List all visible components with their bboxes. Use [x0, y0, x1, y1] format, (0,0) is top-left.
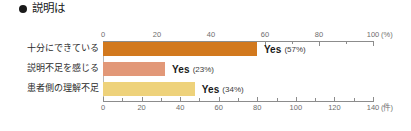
bar-row: Yes(57%): [103, 42, 373, 56]
bar-row: Yes(23%): [103, 62, 373, 76]
filled-circle-icon: [19, 5, 27, 13]
category-label: 説明不足を感じる: [27, 64, 99, 73]
bar: [103, 82, 195, 96]
axis-tick-label: 100: [367, 31, 380, 39]
axis-minor-tick: [238, 98, 239, 101]
axis-tick-label: 80: [253, 104, 261, 112]
bar-value-yes: Yes: [264, 44, 282, 55]
axis-minor-tick: [122, 98, 123, 101]
bar-value-percent: (34%): [222, 85, 243, 94]
axis-minor-tick: [354, 98, 355, 101]
axis-tick: [257, 97, 258, 102]
axis-tick: [373, 41, 374, 46]
axis-tick-label: 60: [215, 104, 223, 112]
top-axis-unit: (%): [381, 31, 393, 39]
bar-value-label: Yes(34%): [195, 82, 244, 96]
bar-value-yes: Yes: [172, 64, 190, 75]
axis-tick-label: 0: [101, 31, 105, 39]
axis-minor-tick: [277, 98, 278, 101]
bottom-axis-unit: (件): [381, 104, 393, 112]
axis-tick-label: 100: [290, 104, 303, 112]
axis-minor-tick: [199, 98, 200, 101]
plot-area: 020406080100 020406080100120140 (%) (件) …: [103, 35, 373, 107]
axis-tick: [373, 97, 374, 102]
bottom-axis-line: [103, 101, 373, 102]
axis-tick: [296, 97, 297, 102]
chart-title-row: 説明は: [19, 3, 66, 15]
bar-value-percent: (57%): [284, 45, 305, 54]
axis-tick: [103, 97, 104, 102]
chart-figure: 説明は 020406080100 020406080100120140 (%) …: [0, 0, 411, 131]
axis-tick-label: 40: [176, 104, 184, 112]
bar: [103, 42, 257, 56]
axis-tick-label: 20: [153, 31, 161, 39]
axis-minor-tick: [315, 98, 316, 101]
bar-value-yes: Yes: [202, 84, 220, 95]
axis-tick-label: 120: [328, 104, 341, 112]
bar-value-percent: (23%): [193, 65, 214, 74]
axis-tick-label: 80: [315, 31, 323, 39]
page-title: 説明は: [32, 3, 66, 15]
axis-tick-label: 0: [101, 104, 105, 112]
category-label: 患者側の理解不足: [27, 84, 99, 93]
axis-tick-label: 20: [137, 104, 145, 112]
axis-tick-label: 60: [261, 31, 269, 39]
bar-value-label: Yes(23%): [165, 62, 214, 76]
axis-tick: [334, 97, 335, 102]
axis-minor-tick: [161, 98, 162, 101]
bar-value-label: Yes(57%): [257, 42, 306, 56]
axis-tick-label: 140: [367, 104, 380, 112]
axis-tick: [142, 97, 143, 102]
axis-tick: [180, 97, 181, 102]
bar-row: Yes(34%): [103, 82, 373, 96]
bar: [103, 62, 165, 76]
category-label: 十分にできている: [27, 44, 99, 53]
axis-tick-label: 40: [207, 31, 215, 39]
axis-tick: [219, 97, 220, 102]
